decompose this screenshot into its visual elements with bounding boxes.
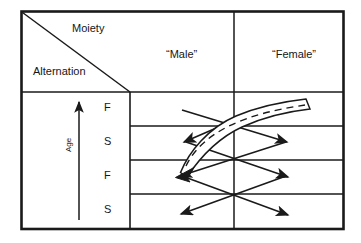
figure-root: Moiety Alternation “Male” “Female” F S F… [0,0,361,243]
alternation-header-label: Alternation [33,65,86,77]
row-label-3: S [104,203,111,215]
column-header-male: “Male” [166,48,197,60]
row-label-2: F [104,169,111,181]
table-outer-border [22,12,344,230]
column-header-female: “Female” [272,48,316,60]
row-label-0: F [104,101,111,113]
table-frame [22,12,344,230]
row-label-1: S [104,135,111,147]
diagram-canvas [0,0,361,243]
moiety-header-label: Moiety [72,22,104,34]
age-axis-label: Age [64,138,73,152]
